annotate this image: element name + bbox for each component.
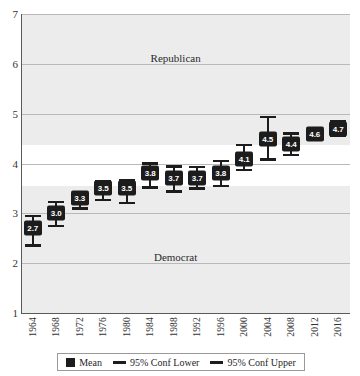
x-axis-tick-label: 1984: [145, 317, 155, 337]
legend-label: Mean: [79, 357, 102, 368]
legend-item: Mean: [66, 357, 102, 368]
x-axis-tick-label: 2004: [263, 317, 273, 337]
x-axis-tick-label: 1972: [75, 317, 85, 337]
x-axis-tick-label: 1996: [216, 317, 226, 337]
x-axis-tick-label: 1992: [192, 317, 202, 337]
x-axis-tick-label: 1968: [51, 317, 61, 337]
legend-item: 95% Conf Lower: [113, 357, 199, 368]
legend-line-icon: [113, 361, 126, 364]
chart-legend: Mean95% Conf Lower95% Conf Upper: [57, 353, 305, 371]
x-axis-tick-labels: 1964196819721976198019841988199219962000…: [0, 0, 360, 376]
x-axis-tick-label: 1988: [169, 317, 179, 337]
legend-item: 95% Conf Upper: [210, 357, 295, 368]
x-axis-tick-label: 1964: [28, 317, 38, 337]
legend-label: 95% Conf Lower: [130, 357, 199, 368]
legend-label: 95% Conf Upper: [227, 357, 295, 368]
x-axis-tick-label: 1976: [98, 317, 108, 337]
legend-square-icon: [66, 358, 75, 367]
x-axis-tick-label: 2000: [239, 317, 249, 337]
x-axis-tick-label: 1980: [122, 317, 132, 337]
x-axis-tick-label: 2012: [310, 317, 320, 337]
x-axis-tick-label: 2016: [333, 317, 343, 337]
election-mean-chart: RepublicanDemocrat 2.73.03.33.53.53.83.7…: [0, 0, 360, 376]
legend-line-icon: [210, 361, 223, 364]
x-axis-tick-label: 2008: [286, 317, 296, 337]
